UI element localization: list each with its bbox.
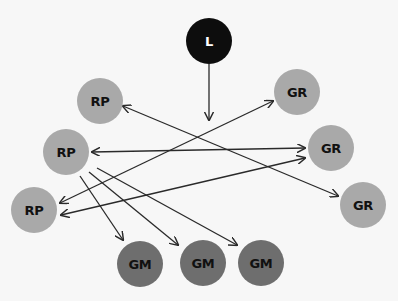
node-rp2: RP — [43, 129, 89, 175]
edge-rp3-gr2 — [61, 158, 305, 215]
node-label: GR — [321, 141, 341, 156]
node-gm2: GM — [180, 240, 226, 286]
node-label: GM — [249, 256, 272, 271]
node-gr2: GR — [308, 125, 354, 171]
node-gm3: GM — [238, 240, 284, 286]
node-label: GM — [191, 256, 214, 271]
edge-rp2-gr2 — [92, 148, 305, 152]
node-label: GR — [287, 85, 307, 100]
node-label: RP — [91, 94, 110, 109]
node-l: L — [186, 18, 232, 64]
node-label: GM — [128, 257, 151, 272]
network-diagram: LRPRPRPGRGRGRGMGMGM — [0, 0, 398, 301]
node-label: RP — [25, 203, 44, 218]
node-gm1: GM — [117, 241, 163, 287]
edge-rp2-gm1 — [80, 176, 123, 240]
node-gr1: GR — [274, 69, 320, 115]
node-label: GR — [353, 198, 373, 213]
node-rp1: RP — [77, 78, 123, 124]
node-label: L — [205, 34, 213, 49]
node-rp3: RP — [11, 187, 57, 233]
node-label: RP — [57, 145, 76, 160]
node-gr3: GR — [340, 182, 386, 228]
